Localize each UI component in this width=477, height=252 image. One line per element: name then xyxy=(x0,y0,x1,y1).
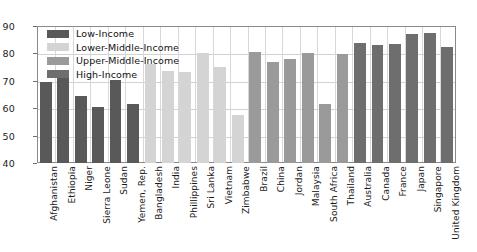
bar-sudan xyxy=(110,80,122,163)
bar-yemen-rep xyxy=(127,104,139,163)
legend-item: High-Income xyxy=(47,69,179,80)
bar-afghanistan xyxy=(40,82,52,163)
x-tick-label-brazil: Brazil xyxy=(259,166,269,192)
x-tick-label-australia: Australia xyxy=(363,166,373,207)
y-tick-mark-40 xyxy=(33,163,37,164)
bar-canada xyxy=(372,45,384,163)
bar-ethiopia xyxy=(57,77,69,163)
bar-thailand xyxy=(337,54,349,163)
bar-phillippines xyxy=(179,72,191,163)
legend-label: High-Income xyxy=(76,69,137,80)
x-tick-label-afghanistan: Afghanistan xyxy=(49,166,59,221)
legend-label: Low-Income xyxy=(76,28,134,39)
bar-south-africa xyxy=(319,104,331,163)
x-tick-label-malaysia: Malaysia xyxy=(311,166,321,206)
bar-jordan xyxy=(284,59,296,163)
x-tick-label-zimbabwe: Zimbabwe xyxy=(241,166,251,214)
bar-malaysia xyxy=(302,53,314,163)
legend-label: Lower-Middle-Income xyxy=(76,42,179,53)
bar-australia xyxy=(354,43,366,163)
legend-swatch-icon xyxy=(47,30,69,38)
x-tick-label-china: China xyxy=(276,166,286,192)
bar-brazil xyxy=(249,52,261,163)
bar-france xyxy=(389,44,401,163)
x-tick-label-singapore: Singapore xyxy=(433,166,443,212)
y-tick-label-40: 40 xyxy=(0,158,15,169)
x-tick-label-sudan: Sudan xyxy=(119,166,129,195)
legend-label: Upper-Middle-Income xyxy=(76,55,179,66)
legend-item: Low-Income xyxy=(47,28,179,39)
x-tick-label-phillippines: Phillippines xyxy=(189,166,199,218)
x-tick-label-bangladesh: Bangladesh xyxy=(154,166,164,220)
x-tick-label-south-africa: South Africa xyxy=(329,166,339,222)
x-tick-label-canada: Canada xyxy=(381,166,391,201)
chart-legend: Low-IncomeLower-Middle-IncomeUpper-Middl… xyxy=(47,28,179,80)
y-tick-label-90: 90 xyxy=(0,21,15,32)
x-tick-label-ethiopia: Ethiopia xyxy=(67,166,77,203)
bar-chart: 405060708090 AfghanistanEthiopiaNigerSie… xyxy=(0,0,477,252)
legend-swatch-icon xyxy=(47,70,69,78)
bar-sri-lanka xyxy=(197,53,209,163)
legend-swatch-icon xyxy=(47,43,69,51)
bar-united-kingdom xyxy=(441,47,453,163)
legend-item: Upper-Middle-Income xyxy=(47,55,179,66)
y-tick-label-50: 50 xyxy=(0,130,15,141)
x-tick-label-thailand: Thailand xyxy=(346,166,356,205)
legend-item: Lower-Middle-Income xyxy=(47,42,179,53)
legend-swatch-icon xyxy=(47,57,69,65)
bar-japan xyxy=(406,34,418,163)
y-tick-label-70: 70 xyxy=(0,75,15,86)
y-tick-label-60: 60 xyxy=(0,103,15,114)
x-tick-label-france: France xyxy=(398,166,408,197)
x-tick-label-yemen-rep: Yemen, Rep. xyxy=(137,166,147,223)
bar-zimbabwe xyxy=(232,115,244,163)
x-axis-labels: AfghanistanEthiopiaNigerSierra LeoneSuda… xyxy=(37,166,456,252)
bar-china xyxy=(267,62,279,163)
x-tick-label-jordan: Jordan xyxy=(294,166,304,195)
bar-niger xyxy=(75,96,87,163)
x-tick-label-japan: Japan xyxy=(416,166,426,192)
x-tick-label-sri-lanka: Sri Lanka xyxy=(206,166,216,208)
bar-sierra-leone xyxy=(92,107,104,163)
x-tick-label-sierra-leone: Sierra Leone xyxy=(102,166,112,224)
bar-singapore xyxy=(424,33,436,163)
x-tick-label-niger: Niger xyxy=(84,166,94,191)
x-tick-label-united-kingdom: United Kingdom xyxy=(451,166,461,240)
bar-india xyxy=(162,71,174,163)
x-tick-label-india: India xyxy=(171,166,181,189)
bar-vietnam xyxy=(214,67,226,163)
y-tick-label-80: 80 xyxy=(0,48,15,59)
x-tick-label-vietnam: Vietnam xyxy=(224,166,234,204)
